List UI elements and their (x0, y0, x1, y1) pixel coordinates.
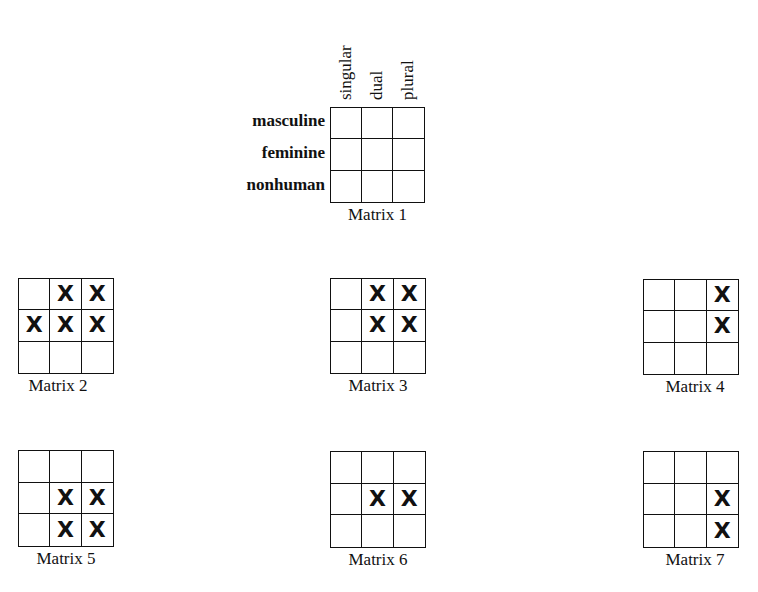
cell (644, 484, 675, 516)
x-mark-cell: X (50, 483, 81, 515)
column-label-plural: plural (398, 60, 418, 100)
cell (644, 515, 675, 547)
matrix-grid: X X (643, 279, 739, 375)
cell (675, 452, 706, 484)
cell (331, 279, 362, 310)
cell (394, 342, 425, 373)
x-mark-cell: X (82, 310, 113, 341)
column-label-dual: dual (367, 71, 387, 100)
cell (331, 515, 362, 547)
cell (362, 342, 393, 373)
cell (675, 515, 706, 547)
x-mark-cell: X (707, 280, 738, 311)
x-mark-cell: X (394, 484, 425, 516)
matrix-caption: Matrix 6 (330, 550, 426, 570)
cell (644, 343, 675, 374)
matrix-grid: X X (643, 451, 739, 548)
cell (675, 484, 706, 516)
matrix-caption: Matrix 3 (330, 376, 426, 396)
cell (50, 451, 81, 483)
cell (19, 342, 50, 373)
x-mark-cell: X (707, 515, 738, 547)
x-mark-cell: X (19, 310, 50, 341)
cell (82, 451, 113, 483)
matrix-caption: Matrix 7 (647, 550, 743, 570)
cell (707, 452, 738, 484)
cell (82, 342, 113, 373)
cell (393, 171, 424, 202)
cell (331, 484, 362, 516)
cell (707, 343, 738, 374)
matrix-grid: X X X X (330, 278, 426, 374)
x-mark-cell: X (82, 279, 113, 310)
cell (331, 139, 362, 170)
matrix-caption: Matrix 2 (10, 376, 106, 396)
x-mark-cell: X (394, 310, 425, 341)
matrix-grid: X X X X (18, 450, 114, 547)
cell (394, 452, 425, 484)
x-mark-cell: X (50, 310, 81, 341)
cell (675, 343, 706, 374)
x-mark-cell: X (82, 514, 113, 546)
cell (331, 171, 362, 202)
matrix-grid: X X (330, 451, 426, 548)
cell (362, 108, 393, 139)
cell (362, 452, 393, 484)
cell (362, 515, 393, 547)
cell (50, 342, 81, 373)
cell (19, 483, 50, 515)
cell (644, 311, 675, 342)
cell (675, 280, 706, 311)
x-mark-cell: X (707, 484, 738, 516)
x-mark-cell: X (362, 484, 393, 516)
x-mark-cell: X (50, 514, 81, 546)
matrix-grid (330, 107, 425, 203)
cell (644, 452, 675, 484)
cell (19, 514, 50, 546)
cell (644, 280, 675, 311)
cell (394, 515, 425, 547)
x-mark-cell: X (362, 279, 393, 310)
cell (331, 108, 362, 139)
matrix-caption: Matrix 4 (647, 377, 743, 397)
column-label-singular: singular (336, 45, 356, 100)
matrix-caption: Matrix 1 (330, 205, 425, 225)
x-mark-cell: X (362, 310, 393, 341)
row-label-feminine: feminine (262, 143, 325, 163)
cell (331, 452, 362, 484)
cell (19, 279, 50, 310)
cell (362, 171, 393, 202)
cell (393, 108, 424, 139)
x-mark-cell: X (50, 279, 81, 310)
cell (393, 139, 424, 170)
cell (331, 310, 362, 341)
x-mark-cell: X (394, 279, 425, 310)
row-label-masculine: masculine (252, 111, 325, 131)
matrix-caption: Matrix 5 (18, 549, 114, 569)
x-mark-cell: X (707, 311, 738, 342)
matrix-grid: X X X X X (18, 278, 114, 374)
cell (331, 342, 362, 373)
x-mark-cell: X (82, 483, 113, 515)
cell (675, 311, 706, 342)
cell (362, 139, 393, 170)
row-label-nonhuman: nonhuman (247, 175, 325, 195)
cell (19, 451, 50, 483)
